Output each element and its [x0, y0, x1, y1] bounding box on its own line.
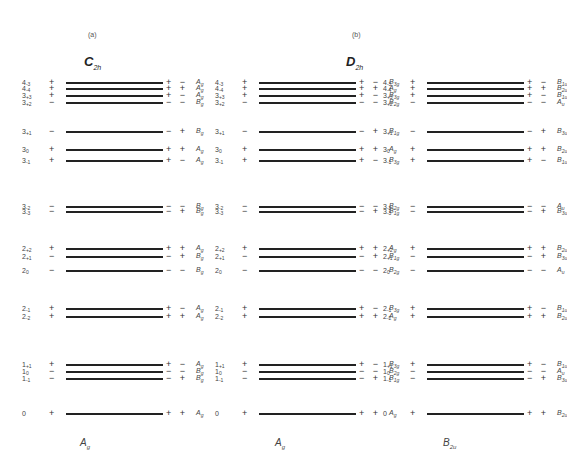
level-label: 0: [22, 410, 26, 418]
left-parity-sign: −: [242, 251, 247, 261]
symmetry-label: Ag: [196, 156, 203, 165]
right-parity-signs: − −: [166, 97, 188, 107]
left-parity-sign: +: [410, 155, 415, 165]
level-label: 20: [22, 267, 29, 275]
energy-level-line: [66, 364, 163, 366]
symmetry-label: B3u: [557, 207, 567, 216]
level-label: 3+1: [383, 128, 393, 136]
energy-level-line: [66, 378, 163, 380]
energy-level-line: [259, 378, 356, 380]
energy-level-line: [66, 88, 163, 90]
symmetry-label: Au: [557, 266, 564, 275]
level-label: 3+2: [383, 99, 393, 107]
right-parity-signs: + −: [166, 155, 188, 165]
group-title-c2h-sub: 2h: [93, 64, 101, 71]
level-label: 30: [383, 146, 390, 154]
left-parity-sign: −: [410, 265, 415, 275]
right-parity-signs: − +: [166, 251, 188, 261]
energy-level-line: [259, 270, 356, 272]
left-parity-sign: −: [410, 373, 415, 383]
level-label: 1-1: [383, 375, 391, 383]
left-parity-sign: −: [49, 373, 54, 383]
right-parity-signs: − +: [527, 126, 549, 136]
level-label: 3+2: [22, 99, 32, 107]
left-parity-sign: +: [49, 144, 54, 154]
energy-level-line: [427, 256, 524, 258]
right-parity-signs: + +: [359, 144, 381, 154]
level-label: 2-1: [215, 305, 223, 313]
level-label: 2-2: [22, 313, 30, 321]
energy-level-line: [259, 364, 356, 366]
symmetry-label: Bg: [196, 374, 203, 383]
energy-level-line: [66, 248, 163, 250]
right-parity-signs: + +: [527, 311, 549, 321]
energy-level-line: [66, 256, 163, 258]
right-parity-signs: − −: [166, 265, 188, 275]
right-parity-signs: − +: [359, 373, 381, 383]
level-label: 2+2: [22, 245, 32, 253]
left-parity-sign: +: [242, 311, 247, 321]
energy-level-line: [259, 82, 356, 84]
right-parity-signs: − +: [166, 126, 188, 136]
energy-level-line: [66, 413, 163, 415]
left-parity-sign: −: [242, 97, 247, 107]
bottom-label-d2h-b2u: B2u: [443, 437, 456, 450]
energy-level-line: [259, 88, 356, 90]
energy-level-line: [259, 308, 356, 310]
right-parity-signs: + +: [527, 144, 549, 154]
symmetry-label: Ag: [196, 145, 203, 154]
energy-level-line: [66, 371, 163, 373]
level-label: 2+1: [383, 253, 393, 261]
level-label: 2-1: [22, 305, 30, 313]
level-label: 2+1: [22, 253, 32, 261]
bottom-label-d2h-ag: Ag: [275, 437, 285, 450]
symmetry-label: Au: [557, 98, 564, 107]
symmetry-label: B2g: [389, 266, 399, 275]
left-parity-sign: +: [242, 408, 247, 418]
energy-level-line: [66, 316, 163, 318]
energy-level-line: [259, 95, 356, 97]
group-title-d2h-sub: 2h: [355, 64, 363, 71]
right-parity-signs: + +: [359, 408, 381, 418]
energy-level-line: [259, 206, 356, 208]
right-parity-signs: + +: [359, 311, 381, 321]
right-parity-signs: + +: [166, 408, 188, 418]
right-parity-signs: − −: [527, 265, 549, 275]
level-label: 0: [215, 410, 219, 418]
level-label: 2-2: [383, 313, 391, 321]
energy-level-line: [259, 248, 356, 250]
energy-level-line: [259, 371, 356, 373]
energy-level-line: [427, 88, 524, 90]
symmetry-label: B2u: [557, 409, 567, 418]
left-parity-sign: +: [242, 155, 247, 165]
left-parity-sign: −: [49, 126, 54, 136]
left-parity-sign: −: [49, 206, 54, 216]
level-label: 3+2: [215, 99, 225, 107]
symmetry-label: B3u: [557, 374, 567, 383]
energy-level-line: [66, 95, 163, 97]
energy-level-line: [66, 131, 163, 133]
left-parity-sign: −: [242, 126, 247, 136]
energy-level-line: [259, 149, 356, 151]
right-parity-signs: + +: [166, 311, 188, 321]
left-parity-sign: −: [49, 265, 54, 275]
energy-level-line: [427, 160, 524, 162]
energy-level-line: [427, 378, 524, 380]
level-label: 2-2: [215, 313, 223, 321]
level-label: 3-3: [383, 208, 391, 216]
level-label: 3+1: [215, 128, 225, 136]
left-parity-sign: +: [49, 155, 54, 165]
energy-level-line: [259, 256, 356, 258]
group-title-d2h: D2h: [346, 54, 363, 71]
energy-level-line: [259, 160, 356, 162]
left-parity-sign: −: [49, 97, 54, 107]
energy-level-line: [66, 211, 163, 213]
right-parity-signs: − +: [166, 206, 188, 216]
right-parity-signs: − −: [527, 97, 549, 107]
left-parity-sign: +: [49, 408, 54, 418]
energy-level-line: [427, 82, 524, 84]
level-label: 2-1: [383, 305, 391, 313]
energy-level-line: [427, 248, 524, 250]
energy-level-line: [66, 149, 163, 151]
energy-level-line: [427, 413, 524, 415]
